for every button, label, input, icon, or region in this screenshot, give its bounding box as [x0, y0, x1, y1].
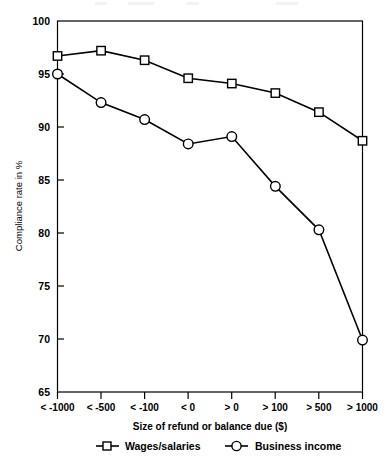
- legend-entry-wages-salaries: Wages/salaries: [96, 440, 201, 452]
- scan-artifact: [95, 2, 298, 5]
- x-axis-ticks: [58, 392, 363, 399]
- legend-entry-business-income: Business income: [225, 440, 342, 452]
- chart-figure: 100 95 90 85 80 75 70 65 Compliance rate…: [0, 0, 386, 461]
- circle-marker-icon: [183, 139, 193, 149]
- y-tick-label: 90: [38, 121, 50, 133]
- x-axis-title: Size of refund or balance due ($): [133, 421, 287, 432]
- plot-area-frame: [58, 21, 363, 392]
- square-marker-icon: [228, 79, 236, 87]
- y-tick-label: 70: [38, 333, 50, 345]
- square-marker-icon: [315, 108, 323, 116]
- y-tick-label: 65: [38, 386, 50, 398]
- x-tick-label: > 500: [306, 402, 332, 413]
- y-tick-label: 95: [38, 68, 50, 80]
- series-wages-salaries: [53, 46, 366, 145]
- square-marker-icon: [103, 442, 111, 450]
- circle-marker-icon: [314, 225, 324, 235]
- y-axis-ticks: [58, 74, 65, 339]
- circle-marker-icon: [227, 132, 237, 142]
- y-tick-label: 100: [32, 15, 50, 27]
- circle-marker-icon: [232, 441, 241, 450]
- circle-marker-icon: [53, 69, 63, 79]
- legend-label: Business income: [255, 440, 342, 452]
- square-marker-icon: [53, 52, 61, 60]
- y-axis-title: Compliance rate in %: [13, 160, 24, 251]
- y-tick-label: 85: [38, 174, 50, 186]
- y-tick-label: 80: [38, 227, 50, 239]
- series-line: [58, 51, 363, 141]
- x-axis-tick-labels: < -1000 < -500 < -100 < 0 > 0 > 100 > 50…: [40, 402, 378, 413]
- legend-label: Wages/salaries: [125, 440, 201, 452]
- compliance-rate-line-chart: 100 95 90 85 80 75 70 65 Compliance rate…: [0, 0, 386, 461]
- square-marker-icon: [97, 46, 105, 54]
- x-tick-label: > 1000: [347, 402, 378, 413]
- chart-legend: Wages/salaries Business income: [96, 440, 342, 452]
- circle-marker-icon: [140, 115, 150, 125]
- x-tick-label: > 0: [225, 402, 240, 413]
- square-marker-icon: [140, 56, 148, 64]
- square-marker-icon: [184, 74, 192, 82]
- square-marker-icon: [358, 137, 366, 145]
- y-axis-tick-labels: 100 95 90 85 80 75 70 65: [32, 15, 50, 398]
- x-tick-label: < -100: [130, 402, 159, 413]
- x-tick-label: < 0: [181, 402, 196, 413]
- circle-marker-icon: [96, 98, 106, 108]
- square-marker-icon: [271, 89, 279, 97]
- circle-marker-icon: [271, 182, 281, 192]
- x-tick-label: > 100: [263, 402, 289, 413]
- y-tick-label: 75: [38, 280, 50, 292]
- x-tick-label: < -1000: [40, 402, 75, 413]
- data-series-layer: [53, 46, 368, 344]
- circle-marker-icon: [358, 335, 368, 345]
- x-tick-label: < -500: [87, 402, 116, 413]
